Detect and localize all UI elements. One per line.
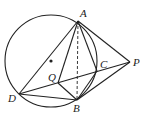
segment-AD <box>19 21 78 94</box>
label-D: D <box>7 92 16 104</box>
label-P: P <box>132 56 140 68</box>
segment-DP <box>19 62 130 94</box>
segment-DB <box>19 94 77 100</box>
segment-QB <box>58 83 77 100</box>
label-B: B <box>73 102 80 114</box>
circle-center-dot <box>49 59 52 62</box>
segment-AB-dashed <box>77 21 78 100</box>
geometry-diagram: A B C D P Q <box>0 0 143 124</box>
segment-AQ <box>58 21 78 83</box>
diagram-svg: A B C D P Q <box>0 0 143 124</box>
label-A: A <box>79 7 87 19</box>
segment-BC <box>77 71 97 100</box>
label-Q: Q <box>48 71 56 83</box>
label-C: C <box>100 58 108 70</box>
